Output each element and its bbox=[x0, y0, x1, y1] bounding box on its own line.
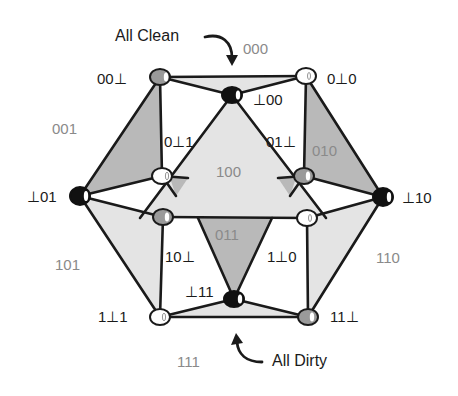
all-clean-arrow-icon bbox=[205, 36, 232, 58]
face-label-100: 100 bbox=[216, 163, 241, 180]
vertex-label-b01: ⊥01 bbox=[27, 188, 57, 205]
node-b00[interactable] bbox=[222, 87, 242, 103]
node-b01[interactable] bbox=[70, 187, 90, 205]
node-1b1[interactable] bbox=[150, 309, 170, 325]
vertex-label-0b0: 0⊥0 bbox=[327, 70, 357, 87]
node-01b[interactable] bbox=[294, 168, 314, 184]
edge-10b-1b0 bbox=[163, 217, 307, 218]
all-dirty-label: All Dirty bbox=[272, 352, 327, 369]
face-label-011: 011 bbox=[215, 226, 239, 243]
node-0b1[interactable] bbox=[152, 168, 172, 184]
all-clean-label: All Clean bbox=[115, 27, 179, 44]
face-label-111: 111 bbox=[177, 353, 200, 370]
vertex-label-1b0: 1⊥0 bbox=[267, 248, 297, 265]
vertex-label-b11: ⊥11 bbox=[185, 283, 214, 300]
node-11b[interactable] bbox=[298, 309, 318, 325]
vertex-label-1b1: 1⊥1 bbox=[98, 308, 128, 325]
node-b10[interactable] bbox=[373, 188, 393, 206]
node-10b[interactable] bbox=[153, 209, 173, 225]
node-0b0[interactable] bbox=[296, 68, 316, 84]
state-diagram: All Clean All Dirty 000 001 010 100 011 … bbox=[0, 0, 458, 396]
face-label-001: 001 bbox=[52, 120, 77, 137]
vertex-label-b10: ⊥10 bbox=[402, 189, 432, 206]
face-label-101: 101 bbox=[55, 256, 80, 273]
face-100-region bbox=[140, 95, 326, 218]
vertex-label-01b: 01⊥ bbox=[266, 133, 296, 150]
vertex-label-0b1: 0⊥1 bbox=[164, 133, 194, 150]
edge-00b-0b0 bbox=[160, 76, 306, 77]
face-label-000: 000 bbox=[243, 40, 268, 57]
node-b11[interactable] bbox=[224, 291, 244, 307]
node-1b0[interactable] bbox=[297, 210, 317, 226]
vertex-label-b00: ⊥00 bbox=[253, 91, 283, 108]
vertex-label-10b: 10⊥ bbox=[165, 248, 195, 265]
face-label-110: 110 bbox=[376, 249, 400, 266]
face-label-010: 010 bbox=[312, 142, 337, 159]
all-clean-arrowhead-icon bbox=[226, 55, 238, 66]
vertex-label-00b: 00⊥ bbox=[97, 70, 127, 87]
edge-1b0-11b bbox=[307, 218, 308, 317]
all-dirty-arrowhead-icon bbox=[231, 333, 243, 345]
node-00b[interactable] bbox=[150, 69, 170, 85]
all-dirty-arrow-icon bbox=[237, 342, 262, 362]
vertex-label-11b: 11⊥ bbox=[330, 308, 359, 325]
